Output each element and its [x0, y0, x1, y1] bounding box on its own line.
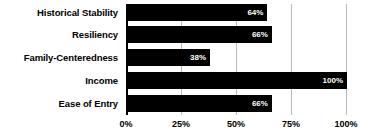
bar-value-family-centeredness: 38% [190, 49, 206, 66]
x-tick-label-75: 75% [282, 118, 300, 130]
x-tick-label-0: 0% [119, 118, 132, 130]
category-label-family-centeredness: Family-Centeredness [24, 49, 118, 66]
category-label-income: Income [85, 72, 118, 89]
bar-ease-of-entry: 66% [126, 95, 272, 112]
category-label-ease-of-entry: Ease of Entry [59, 95, 118, 112]
bar-income: 100% [126, 72, 347, 89]
bar-value-income: 100% [323, 72, 343, 89]
x-tick-label-100: 100% [334, 118, 357, 130]
gridline-75 [291, 4, 292, 115]
category-axis-labels: Historical Stability Resiliency Family-C… [0, 4, 122, 115]
x-axis-tick-labels: 0% 25% 50% 75% 100% [126, 118, 347, 132]
x-tick-label-25: 25% [172, 118, 190, 130]
x-tick-label-50: 50% [227, 118, 245, 130]
bar-family-centeredness: 38% [126, 49, 210, 66]
bar-historical-stability: 64% [126, 4, 267, 21]
bar-value-ease-of-entry: 66% [252, 95, 268, 112]
bar-chart: Historical Stability Resiliency Family-C… [0, 0, 370, 140]
category-label-historical-stability: Historical Stability [37, 4, 118, 21]
category-label-resiliency: Resiliency [72, 26, 118, 43]
bar-value-resiliency: 66% [252, 26, 268, 43]
plot-area: 64% 66% 38% 100% 66% [126, 4, 347, 115]
bar-value-historical-stability: 64% [247, 4, 263, 21]
gridline-100 [346, 4, 347, 115]
bar-resiliency: 66% [126, 26, 272, 43]
